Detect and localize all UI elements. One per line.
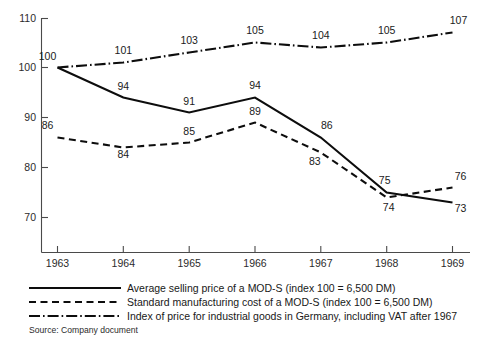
x-axis-tick-labels: 1963 1964 1965 1966 1967 1968 1969	[46, 257, 465, 269]
data-point-label: 104	[312, 29, 330, 41]
x-tick-label: 1968	[375, 257, 399, 269]
data-point-label: 74	[383, 201, 395, 213]
legend-item-industrial-goods-index: Index of price for industrial goods in G…	[29, 309, 469, 323]
source-note: Source: Company document	[29, 325, 138, 335]
chart-figure: 110 100 90 80 70 1963 1964 1965 1966 196…	[0, 0, 481, 341]
legend-label: Index of price for industrial goods in G…	[121, 309, 457, 323]
data-point-label: 85	[183, 125, 195, 137]
y-tick-label: 100	[18, 61, 36, 73]
legend-item-average-selling-price: Average selling price of a MOD-S (index …	[29, 281, 469, 295]
data-point-label: 86	[42, 119, 54, 131]
x-tick-label: 1963	[46, 257, 70, 269]
data-point-label: 86	[321, 119, 333, 131]
data-point-label: 105	[246, 24, 264, 36]
legend-label: Standard manufacturing cost of a MOD-S (…	[121, 295, 433, 309]
data-point-label: 100	[39, 50, 57, 62]
x-tick-label: 1967	[309, 257, 333, 269]
y-tick-label: 90	[24, 111, 36, 123]
y-axis-tick-labels: 110 100 90 80 70	[18, 12, 36, 223]
series-line-standard-manufacturing-cost	[58, 123, 453, 198]
legend-swatch-solid	[29, 282, 121, 294]
legend-item-standard-manufacturing-cost: Standard manufacturing cost of a MOD-S (…	[29, 295, 469, 309]
axes	[42, 18, 471, 253]
y-tick-label: 80	[24, 161, 36, 173]
x-tick-label: 1966	[243, 257, 267, 269]
x-axis-ticks	[58, 246, 453, 253]
x-tick-label: 1965	[178, 257, 202, 269]
legend-label: Average selling price of a MOD-S (index …	[121, 281, 396, 295]
data-point-label: 89	[249, 105, 261, 117]
data-point-label: 94	[117, 80, 129, 92]
data-point-label: 103	[180, 34, 198, 46]
data-point-label: 105	[378, 24, 396, 36]
data-point-label: 91	[183, 95, 195, 107]
data-point-labels: 1009491948675738684858983747610110310510…	[39, 14, 468, 214]
data-point-label: 84	[117, 148, 129, 160]
data-point-label: 107	[450, 14, 468, 26]
data-point-label: 101	[115, 44, 133, 56]
data-point-label: 76	[455, 170, 467, 182]
y-tick-label: 70	[24, 211, 36, 223]
y-tick-label: 110	[19, 12, 36, 24]
x-tick-label: 1964	[112, 257, 136, 269]
data-point-label: 94	[249, 79, 261, 91]
legend-swatch-dashed	[29, 296, 121, 308]
chart-legend: Average selling price of a MOD-S (index …	[29, 281, 469, 323]
data-point-label: 73	[455, 202, 467, 214]
x-tick-label: 1969	[441, 257, 465, 269]
data-point-label: 75	[379, 174, 391, 186]
legend-swatch-dash-dot	[29, 310, 121, 322]
data-point-label: 83	[309, 155, 321, 167]
